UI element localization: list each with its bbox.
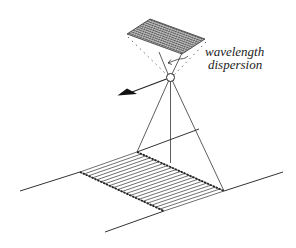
- ground-swath-lines: [20, 129, 283, 232]
- grating-plate: [127, 19, 205, 54]
- dispersion-label: dispersion: [208, 58, 262, 71]
- lens-aperture: [167, 74, 175, 82]
- flight-direction-arrow-icon: [118, 79, 167, 96]
- dispersion-arrow-icon: [168, 56, 188, 65]
- imaging-spectrometer-diagram: [0, 0, 296, 248]
